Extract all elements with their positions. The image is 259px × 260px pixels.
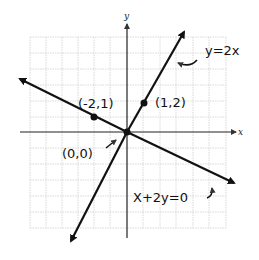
x-axis-label: x bbox=[238, 127, 243, 137]
point-neg2-1 bbox=[91, 114, 98, 121]
label-x-plus-2y-equals-0: X+2y=0 bbox=[133, 190, 188, 205]
label-neg2-1: (-2,1) bbox=[78, 96, 114, 111]
line2-pointer-arrow bbox=[207, 188, 212, 198]
label-y-equals-2x: y=2x bbox=[205, 43, 240, 58]
y-axis-label: y bbox=[123, 11, 130, 21]
origin-pointer-arrow bbox=[106, 140, 116, 148]
label-1-2: (1,2) bbox=[155, 95, 186, 110]
graph-figure: x y (-2,1) (1,2) (0,0) y=2x X+2y=0 bbox=[0, 0, 259, 260]
point-1-2 bbox=[141, 100, 148, 107]
point-origin bbox=[124, 129, 131, 136]
label-origin: (0,0) bbox=[62, 146, 93, 161]
line1-pointer-arrow bbox=[178, 60, 197, 65]
